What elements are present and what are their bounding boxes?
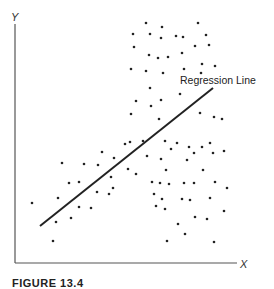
data-point [130,68,133,71]
data-point [57,197,60,200]
data-point [161,198,164,201]
data-point [61,162,64,165]
data-point [135,173,138,176]
data-point [162,72,165,75]
data-point [182,36,185,39]
data-point [223,210,226,213]
data-point [176,142,179,145]
data-point [52,240,55,243]
data-point [159,182,162,185]
x-axis-label: X [239,258,248,270]
data-point [149,87,152,90]
data-point [205,34,208,37]
data-point [223,150,226,153]
data-point [188,146,191,149]
data-point [221,118,224,121]
data-point [160,99,163,102]
data-point [193,152,196,155]
data-point [145,70,148,73]
data-point [209,142,212,145]
data-point [194,216,197,219]
data-point [179,93,182,96]
data-point [55,221,58,224]
data-point [197,22,200,25]
data-point [168,183,171,186]
data-point [155,205,158,208]
data-point [177,223,180,226]
data-point [127,168,130,171]
data-point [157,57,160,60]
data-point [145,22,148,25]
data-point [158,118,161,121]
data-point [209,197,212,200]
data-point [226,187,229,190]
data-point [153,193,156,196]
data-point [166,240,169,243]
data-point [183,182,186,185]
data-point [149,33,152,36]
data-point [151,181,154,184]
data-point [133,46,136,49]
data-point [189,199,192,202]
data-point [78,181,81,184]
data-point [199,112,202,115]
data-point [212,152,215,155]
data-point [132,33,135,36]
data-point [186,159,189,162]
data-point [129,141,132,144]
data-point [181,198,184,201]
data-point [193,182,196,185]
data-point [167,56,170,59]
data-point [181,52,184,55]
data-point [101,151,104,154]
data-point [165,169,168,172]
data-point [160,158,163,161]
data-point [164,140,167,143]
data-point [110,176,113,179]
y-axis-label: Y [11,11,19,23]
data-point [170,148,173,151]
data-point [175,35,178,38]
data-point [112,187,115,190]
data-point [202,169,205,172]
data-point [164,208,167,211]
data-point [214,181,217,184]
data-point [213,116,216,119]
data-point [90,207,93,210]
data-point [146,155,149,158]
data-point [70,217,73,220]
data-point [201,146,204,149]
data-point [97,164,100,167]
data-point [31,202,34,205]
data-point [161,26,164,29]
regression-line-label: Regression Line [180,74,256,86]
data-point [135,100,138,103]
data-point [130,113,133,116]
data-point [194,45,197,48]
data-point [96,191,99,194]
data-point [160,37,163,40]
data-point [113,157,116,160]
data-point [213,241,216,244]
data-point [108,193,111,196]
data-point [184,233,187,236]
data-point [148,54,151,57]
data-point [208,44,211,47]
data-point [124,143,127,146]
data-point [183,68,186,71]
figure-caption: FIGURE 13.4 [12,277,84,289]
data-point [78,206,81,209]
data-point [214,65,217,68]
regression-line [40,88,213,226]
data-point [150,105,153,108]
data-point [201,63,204,66]
data-point [68,182,71,185]
data-point [206,218,209,221]
data-point [83,163,86,166]
